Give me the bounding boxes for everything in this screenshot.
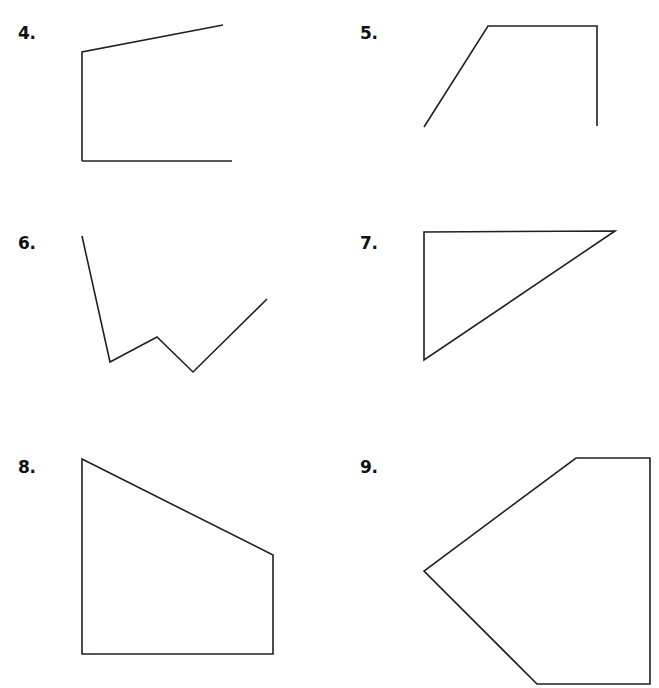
figure-9-closed-pentagon bbox=[0, 0, 659, 688]
figure-9-outline bbox=[424, 458, 650, 684]
worksheet-page: 4. 5. 6. 7. 8. 9. bbox=[0, 0, 659, 688]
